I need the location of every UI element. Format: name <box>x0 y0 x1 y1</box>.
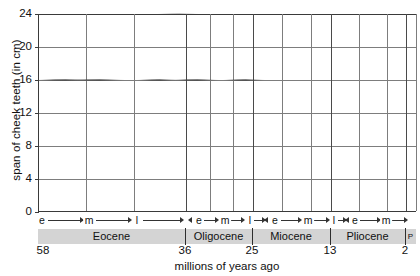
arrow-right-icon <box>326 217 330 223</box>
subepoch-strip: e m l e m l e m l e m <box>38 213 416 228</box>
y-tick-mark <box>35 179 39 180</box>
gridline-epoch-boundary-oligocene-miocene <box>253 14 254 211</box>
subepoch-label: m <box>219 213 231 228</box>
arrow-right-icon <box>180 217 184 223</box>
arrow-left-icon <box>264 217 268 223</box>
arrow-right-icon <box>404 217 408 223</box>
gridline-vertical <box>210 14 211 211</box>
epoch-band: Eocene Oligocene Miocene Pliocene P <box>38 229 416 244</box>
arrow-left-icon <box>188 217 192 223</box>
gridline-vertical <box>387 14 388 211</box>
y-tick-label: 0 <box>10 206 32 218</box>
gridline-vertical <box>86 14 87 211</box>
gridline-epoch-boundary-miocene-pliocene <box>331 14 332 211</box>
y-tick-label: 20 <box>10 41 32 53</box>
gridline-vertical <box>134 14 135 211</box>
gridline-vertical-right-edge <box>416 14 417 211</box>
subepoch-label: m <box>83 213 95 228</box>
y-tick-label: 16 <box>10 74 32 86</box>
subepoch-label: l <box>134 213 139 228</box>
gridline-epoch-boundary-eocene-oligocene <box>186 14 187 211</box>
y-tick-label: 24 <box>10 8 32 20</box>
x-tick-label: 13 <box>324 245 337 257</box>
subepoch-label: l <box>247 213 252 228</box>
epoch-pliocene: Pliocene <box>330 229 405 244</box>
gridline-vertical <box>311 14 312 211</box>
epoch-miocene: Miocene <box>252 229 330 244</box>
x-axis-title: millions of years ago <box>38 260 416 272</box>
epoch-eocene: Eocene <box>38 229 185 244</box>
y-tick-mark <box>35 14 39 15</box>
subepoch-label: e <box>271 213 280 228</box>
subepoch-label: e <box>351 213 360 228</box>
chart-figure: span of cheek teeth (in cm) 24 20 16 12 … <box>0 0 420 276</box>
data-mark <box>69 79 125 81</box>
arrow-right-icon <box>241 217 245 223</box>
x-tick-label: 2 <box>402 245 408 257</box>
arrow-left-icon <box>345 217 349 223</box>
subepoch-label: l <box>331 213 336 228</box>
x-tick-label: 36 <box>179 245 192 257</box>
gridline-epoch-boundary-pliocene-pleistocene <box>406 14 407 211</box>
y-tick-mark <box>35 47 39 48</box>
plot-area <box>38 14 416 212</box>
y-tick-mark <box>35 146 39 147</box>
x-tick-label: 58 <box>37 245 50 257</box>
y-tick-label: 12 <box>10 107 32 119</box>
y-axis-tick-labels: 24 20 16 12 8 4 0 <box>8 0 32 276</box>
y-tick-label: 8 <box>10 140 32 152</box>
data-mark <box>171 79 219 81</box>
gridline-vertical <box>282 14 283 211</box>
data-mark <box>157 13 199 15</box>
x-tick-label: 25 <box>246 245 259 257</box>
y-tick-mark <box>35 113 39 114</box>
subepoch-label: e <box>38 213 47 228</box>
epoch-oligocene: Oligocene <box>185 229 252 244</box>
arrow-right-icon <box>128 217 132 223</box>
epoch-pleistocene: P <box>405 229 416 244</box>
gridline-vertical <box>233 14 234 211</box>
y-tick-label: 4 <box>10 173 32 185</box>
data-mark <box>223 79 265 81</box>
subepoch-label: m <box>380 213 392 228</box>
subepoch-label: e <box>195 213 204 228</box>
gridline-vertical <box>359 14 360 211</box>
subepoch-label: m <box>302 213 314 228</box>
